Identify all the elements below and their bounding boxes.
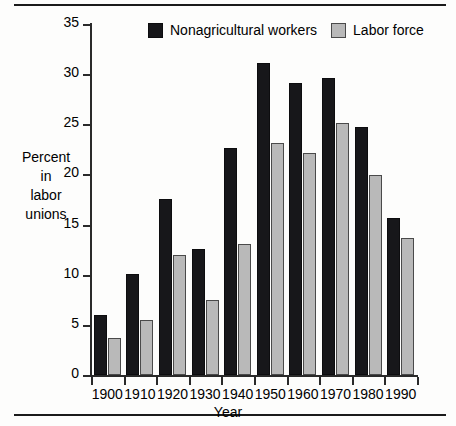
bar-1990-nonagricultural-workers: [387, 218, 400, 375]
bar-1960-labor-force: [303, 153, 316, 375]
x-axis-title: Year: [0, 404, 456, 420]
chart-figure: Nonagricultural workers Labor force Perc…: [0, 0, 456, 426]
plot-area: 05101520253035: [92, 24, 418, 375]
bar-group-1950: [257, 24, 284, 375]
bar-1900-labor-force: [108, 338, 121, 375]
x-tick-label-1990: 1990: [379, 386, 423, 402]
bar-group-1910: [126, 24, 153, 375]
x-tick-mark-1960: [287, 377, 289, 385]
bar-1980-nonagricultural-workers: [355, 127, 368, 375]
x-tick-mark-1990: [384, 377, 386, 385]
bar-1950-labor-force: [271, 143, 284, 375]
y-tick-label: 25: [51, 115, 79, 130]
x-tick-mark-1900: [91, 377, 93, 385]
bar-1990-labor-force: [401, 238, 414, 375]
x-tick-mark-1920: [156, 377, 158, 385]
y-tick-label: 5: [51, 316, 79, 331]
y-tick-mark: [83, 174, 92, 176]
x-tick-mark-1940: [221, 377, 223, 385]
bar-1940-labor-force: [238, 244, 251, 375]
x-tick-mark-1930: [189, 377, 191, 385]
x-tick-mark-1910: [124, 377, 126, 385]
y-tick-label: 15: [51, 216, 79, 231]
bar-1930-labor-force: [206, 300, 219, 375]
bar-1910-labor-force: [140, 320, 153, 375]
bar-group-1940: [224, 24, 251, 375]
y-axis-title-line-3: labor: [8, 186, 84, 205]
y-tick-mark: [83, 325, 92, 327]
bar-1940-nonagricultural-workers: [224, 148, 237, 375]
bar-1950-nonagricultural-workers: [257, 63, 270, 375]
bar-1960-nonagricultural-workers: [289, 83, 302, 375]
y-tick-label: 0: [51, 366, 79, 381]
bar-group-1900: [94, 24, 121, 375]
y-tick-label: 10: [51, 266, 79, 281]
bar-1930-nonagricultural-workers: [192, 249, 205, 375]
y-axis-title: Percent in labor unions: [8, 148, 84, 224]
bar-group-1990: [387, 24, 414, 375]
x-tick-mark-1950: [254, 377, 256, 385]
top-rule: [14, 4, 446, 6]
bar-1910-nonagricultural-workers: [126, 274, 139, 375]
bar-1920-labor-force: [173, 255, 186, 375]
x-tick-mark-end: [417, 377, 419, 385]
bar-1920-nonagricultural-workers: [159, 199, 172, 376]
x-tick-mark-1970: [319, 377, 321, 385]
bar-1980-labor-force: [369, 175, 382, 375]
y-tick-label: 30: [51, 65, 79, 80]
y-tick-label: 35: [51, 15, 79, 30]
y-tick-mark: [83, 275, 92, 277]
bar-1900-nonagricultural-workers: [94, 315, 107, 375]
y-tick-mark: [83, 225, 92, 227]
bar-1970-nonagricultural-workers: [322, 78, 335, 375]
bar-group-1930: [192, 24, 219, 375]
bar-group-1980: [355, 24, 382, 375]
y-tick-mark: [83, 74, 92, 76]
bar-1970-labor-force: [336, 123, 349, 375]
bar-group-1970: [322, 24, 349, 375]
x-tick-mark-1980: [352, 377, 354, 385]
bar-group-1960: [289, 24, 316, 375]
bar-group-1920: [159, 24, 186, 375]
y-tick-mark: [83, 24, 92, 26]
y-tick-mark: [83, 124, 92, 126]
y-tick-label: 20: [51, 165, 79, 180]
